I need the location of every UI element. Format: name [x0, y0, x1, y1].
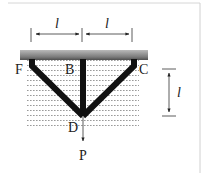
truss-diagram: l l l P F B C D — [0, 0, 209, 173]
node-label-C: C — [139, 62, 148, 77]
node-label-D: D — [68, 120, 78, 135]
ceiling-support — [20, 50, 148, 60]
dim-label-right-span: l — [105, 16, 109, 31]
node-label-F: F — [15, 62, 23, 77]
dim-label-height: l — [177, 85, 181, 100]
node-label-B: B — [65, 62, 74, 77]
diagram-frame: l l l P F B C D — [0, 0, 209, 173]
dim-label-left-span: l — [55, 16, 59, 31]
load-label-P: P — [79, 148, 87, 163]
